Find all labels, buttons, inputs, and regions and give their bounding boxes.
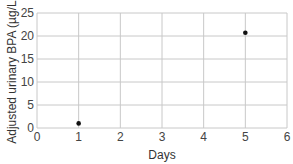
x-axis-ticks: 0123456 — [34, 130, 291, 144]
x-tick-label: 1 — [75, 130, 82, 144]
y-tick-label: 15 — [21, 52, 35, 66]
x-tick-label: 6 — [284, 130, 291, 144]
x-tick-label: 2 — [117, 130, 124, 144]
y-tick-label: 5 — [27, 98, 34, 112]
y-tick-label: 0 — [27, 121, 34, 135]
y-axis-ticks: 0510152025 — [21, 6, 35, 135]
x-axis-label: Days — [148, 148, 175, 162]
y-tick-label: 20 — [21, 29, 35, 43]
scatter-chart: 0123456 0510152025 Days Adjusted urinary… — [0, 0, 293, 164]
data-point — [76, 121, 81, 126]
x-tick-label: 5 — [242, 130, 249, 144]
x-tick-label: 0 — [34, 130, 41, 144]
data-point — [243, 30, 248, 35]
y-tick-label: 10 — [21, 75, 35, 89]
x-tick-label: 3 — [159, 130, 166, 144]
y-tick-label: 25 — [21, 6, 35, 20]
x-tick-label: 4 — [200, 130, 207, 144]
y-axis-label: Adjusted urinary BPA (µg/L) — [5, 0, 19, 144]
grid-lines — [37, 13, 287, 128]
